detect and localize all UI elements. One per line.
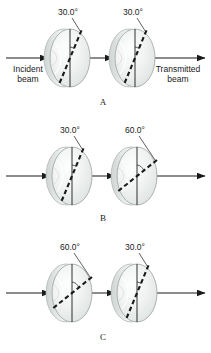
polarizer-disk-C-2: 30.0° (111, 242, 157, 322)
angle-label-C-1: 60.0° (60, 242, 80, 252)
angle-label-B-1: 30.0° (60, 125, 80, 135)
panel-A: 30.0°30.0°IncidentbeamTransmittedbeamA (6, 7, 205, 107)
polarizer-disk-B-1: 30.0° (46, 125, 92, 205)
panel-letter-C: C (100, 332, 106, 342)
polarizer-figure: 30.0°30.0°IncidentbeamTransmittedbeamA30… (0, 0, 211, 353)
panels-group: 30.0°30.0°IncidentbeamTransmittedbeamA30… (6, 7, 205, 342)
angle-label-C-2: 30.0° (125, 242, 145, 252)
angle-label-B-2: 60.0° (125, 125, 145, 135)
polarizer-disk-A-2: 30.0° (109, 7, 155, 87)
incident-beam-label: Incident (13, 64, 43, 74)
panel-letter-B: B (100, 213, 106, 223)
polarizer-disk-A-1: 30.0° (44, 7, 90, 87)
angle-label-A-2: 30.0° (123, 7, 143, 17)
polarizer-disk-C-1: 60.0° (46, 242, 92, 322)
transmitted-beam-label: Transmitted (156, 64, 201, 74)
figure-canvas: 30.0°30.0°IncidentbeamTransmittedbeamA30… (0, 0, 211, 353)
incident-beam-label: beam (17, 74, 38, 84)
panel-C: 60.0°30.0°C (6, 242, 205, 342)
panel-B: 30.0°60.0°B (6, 125, 205, 223)
transmitted-beam-label: beam (167, 74, 188, 84)
panel-letter-A: A (100, 97, 107, 107)
polarizer-disk-B-2: 60.0° (111, 125, 157, 205)
angle-label-A-1: 30.0° (58, 7, 78, 17)
